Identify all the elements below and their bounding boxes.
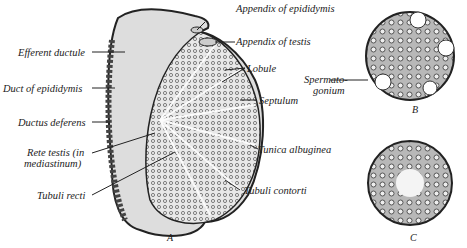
- label-lobule: Lobule: [247, 63, 276, 74]
- label-tunica-albuginea: Tunica albuginea: [258, 144, 331, 155]
- caption-panel-b: B: [412, 104, 418, 115]
- label-efferent-ductule: Efferent ductule: [18, 47, 85, 58]
- label-ductus-deferens: Ductus deferens: [18, 117, 86, 128]
- label-tubuli-recti: Tubuli recti: [37, 190, 85, 201]
- panel-b-drawing: [366, 12, 454, 100]
- panel-c-drawing: [368, 141, 452, 225]
- label-spermatogonium-line2: gonium: [313, 85, 345, 96]
- label-rete-testis-line2: mediastinum): [24, 158, 81, 169]
- label-tubuli-contorti: Tubuli contorti: [244, 185, 307, 196]
- label-duct-of-epididymis: Duct of epididymis: [3, 83, 82, 94]
- label-septulum: Septulum: [259, 95, 298, 106]
- label-appendix-of-testis: Appendix of testis: [236, 36, 311, 47]
- label-spermatogonium-line1: Spermato-: [304, 74, 348, 85]
- caption-panel-c: C: [410, 232, 417, 243]
- caption-panel-a: A: [167, 232, 173, 243]
- label-appendix-of-epididymis: Appendix of epididymis: [236, 3, 335, 14]
- label-rete-testis-line1: Rete testis (in: [27, 147, 84, 158]
